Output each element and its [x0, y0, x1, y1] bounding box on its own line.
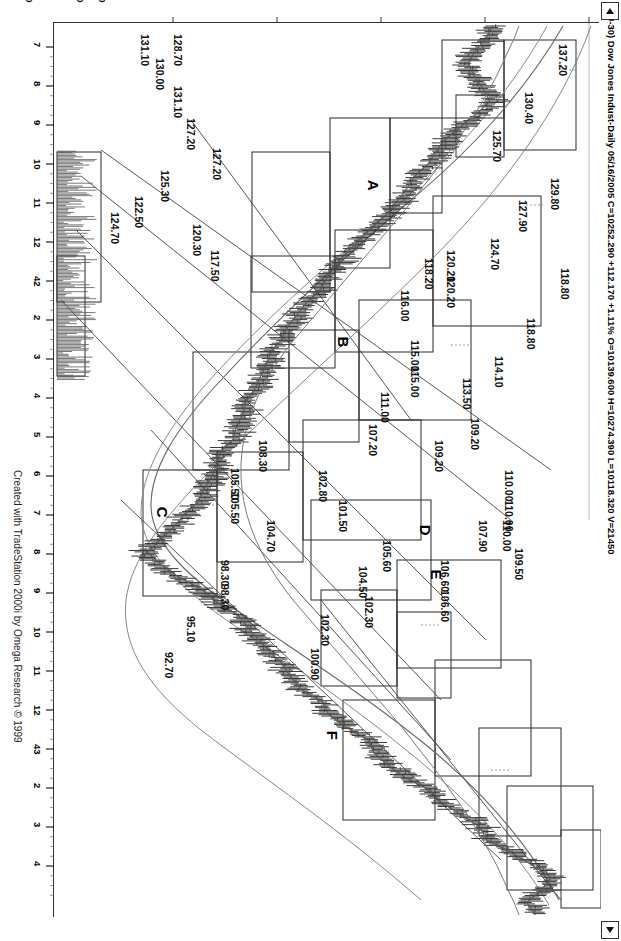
wave-label-B: B [335, 337, 352, 348]
time-tick-12-5: 12 [32, 237, 43, 248]
time-tick-2-19: 2 [32, 783, 43, 788]
price-label-19: 120.20 [445, 276, 457, 308]
price-label-16: 124.70 [489, 238, 501, 270]
price-label-23: 114.10 [493, 356, 505, 388]
time-tick-9-2: 9 [32, 120, 43, 125]
price-label-37: 102.80 [317, 470, 329, 502]
time-tick-11-16: 11 [32, 666, 43, 676]
wave-label-A: A [365, 180, 382, 191]
price-label-4: 127.20 [185, 118, 197, 150]
price-label-50: 95.10 [185, 616, 197, 642]
quote-header: (DJ-30) Dow Jones Indust-Daily 05/16/200… [606, 6, 617, 555]
time-tick-3-20: 3 [32, 822, 43, 827]
volume-tick-30: 30 [75, 0, 86, 3]
time-tick-42-6: 42 [32, 276, 43, 287]
price-label-8: 124.70 [109, 212, 121, 244]
price-label-41: 102.30 [363, 596, 375, 628]
price-label-21: 116.00 [399, 290, 411, 322]
price-label-1: 130.00 [154, 58, 166, 90]
price-label-14: 129.80 [549, 178, 561, 210]
wave-label-E: E [428, 570, 445, 580]
price-label-52: 110.00 [501, 520, 513, 552]
volume-tick-10: 10 [97, 0, 108, 3]
price-label-39: 105.60 [381, 540, 393, 572]
triangle-down-icon [606, 927, 614, 933]
price-label-30: 109.50 [513, 548, 525, 580]
volume-tick-80: 80 [24, 0, 35, 3]
time-tick-12-17: 12 [32, 705, 43, 716]
time-tick-3-8: 3 [32, 354, 43, 359]
series-moving-average-slow [241, 26, 519, 915]
price-label-43: 100.90 [309, 648, 321, 680]
price-label-36: 107.20 [367, 424, 379, 456]
price-label-0: 131.10 [139, 34, 151, 66]
chart-window: (DJ-30) Dow Jones Indust-Daily 05/16/200… [0, 0, 621, 941]
price-label-38: 101.50 [337, 500, 349, 532]
price-label-22: 118.80 [525, 318, 537, 350]
time-tick-8-13: 8 [32, 549, 43, 554]
time-tick-7-12: 7 [32, 510, 43, 515]
time-tick-5-10: 5 [32, 432, 43, 437]
price-label-46: 105.50 [229, 492, 241, 524]
wave-label-F: F [324, 731, 341, 740]
scroll-down-button[interactable] [601, 921, 619, 939]
price-label-5: 127.20 [211, 148, 223, 180]
time-tick-11-4: 11 [32, 198, 43, 208]
triangle-up-icon [606, 8, 614, 14]
price-label-10: 117.50 [209, 250, 221, 282]
price-label-27: 110.00 [503, 470, 515, 502]
price-label-34: 115.00 [409, 366, 421, 398]
price-label-24: 113.50 [461, 378, 473, 410]
price-label-26: 109.20 [433, 440, 445, 472]
price-label-25: 109.20 [469, 418, 481, 450]
price-label-51: 92.70 [163, 652, 175, 678]
price-label-49: 98.30 [219, 584, 231, 610]
time-tick-8-1: 8 [32, 81, 43, 86]
time-tick-9-14: 9 [32, 588, 43, 593]
time-tick-4-9: 4 [32, 393, 43, 398]
chart-graphics [0, 0, 621, 941]
price-label-12: 130.40 [523, 92, 535, 124]
price-label-44: 108.30 [257, 440, 269, 472]
price-label-29: 107.90 [477, 520, 489, 552]
price-label-47: 104.70 [265, 520, 277, 552]
time-axis-line [53, 22, 54, 917]
time-tick-7-0: 7 [32, 42, 43, 47]
price-label-35: 111.00 [379, 392, 391, 423]
price-label-6: 125.30 [159, 170, 171, 202]
time-tick-2-7: 2 [32, 315, 43, 320]
time-tick-6-11: 6 [32, 471, 43, 476]
chart-canvas[interactable]: (DJ-30) Dow Jones Indust-Daily 05/16/200… [0, 0, 621, 941]
scroll-up-button[interactable] [601, 2, 619, 20]
price-label-15: 127.90 [517, 200, 529, 232]
time-tick-10-3: 10 [32, 159, 43, 170]
tradestation-credit: Created with TradeStation 2000i by Omega… [12, 470, 23, 743]
time-tick-10-15: 10 [32, 627, 43, 638]
price-label-3: 131.10 [172, 86, 184, 118]
price-label-40: 104.50 [357, 566, 369, 598]
price-label-9: 120.30 [191, 224, 203, 256]
price-axis-line [54, 22, 599, 23]
price-label-17: 118.80 [559, 268, 571, 300]
price-label-7: 122.50 [133, 196, 145, 228]
price-label-11: 137.20 [557, 44, 569, 76]
price-label-42: 102.30 [319, 614, 331, 646]
price-label-20: 118.20 [423, 258, 435, 290]
price-label-2: 128.70 [172, 34, 184, 66]
time-tick-43-18: 43 [32, 744, 43, 755]
wave-label-D: D [417, 525, 434, 536]
time-tick-4-21: 4 [32, 861, 43, 866]
price-label-13: 125.70 [491, 130, 503, 162]
price-label-48: 98.30 [219, 560, 231, 586]
price-label-32: 106.60 [439, 590, 451, 622]
wave-label-C: C [154, 507, 171, 518]
